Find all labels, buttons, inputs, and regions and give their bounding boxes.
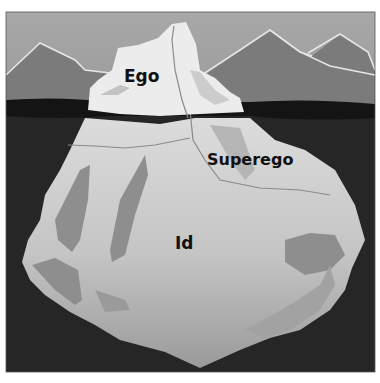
label-superego: Superego — [207, 150, 293, 169]
label-id: Id — [175, 233, 194, 253]
iceberg-diagram: Ego Superego Id — [0, 0, 380, 383]
label-ego: Ego — [124, 66, 159, 86]
